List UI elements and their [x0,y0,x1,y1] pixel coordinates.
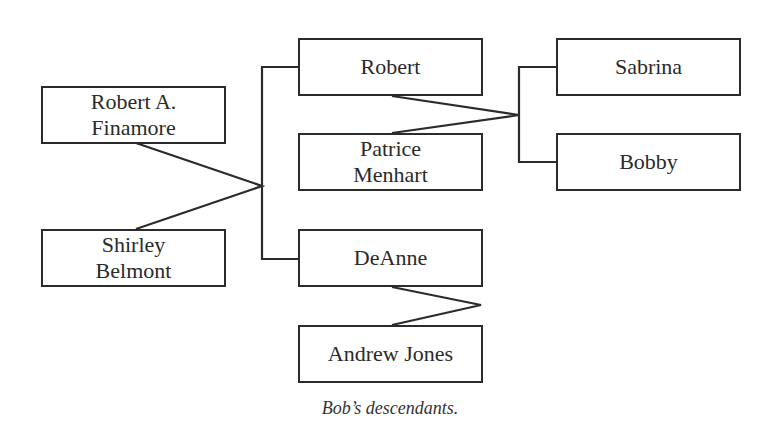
couple-link-robert-patrice [392,96,519,133]
person-sabrina: Sabrina [556,38,741,96]
person-name: Patrice [360,136,421,161]
person-surname: Finamore [91,115,175,140]
person-surname: Belmont [96,258,172,283]
person-patrice-menhart: Patrice Menhart [298,133,483,191]
person-name: Shirley [102,232,166,257]
couple-link-deanne-andrew [392,287,481,325]
person-andrew-jones: Andrew Jones [298,325,483,383]
person-name: DeAnne [354,245,427,271]
person-shirley-belmont: Shirley Belmont [41,229,226,287]
person-deanne: DeAnne [298,229,483,287]
person-name: Robert A. [91,89,177,114]
person-robert: Robert [298,38,483,96]
children-bracket-gen3 [519,67,556,162]
person-surname: Menhart [353,162,428,187]
figure-caption: Bob’s descendants. [0,398,780,419]
children-bracket-gen2 [262,67,298,259]
couple-link-finamore-belmont [136,143,262,229]
person-bobby: Bobby [556,133,741,191]
person-name: Robert [361,54,421,80]
person-name: Bobby [619,149,678,175]
person-name: Andrew Jones [328,341,453,367]
person-name: Sabrina [615,54,682,80]
person-robert-a-finamore: Robert A. Finamore [41,86,226,144]
